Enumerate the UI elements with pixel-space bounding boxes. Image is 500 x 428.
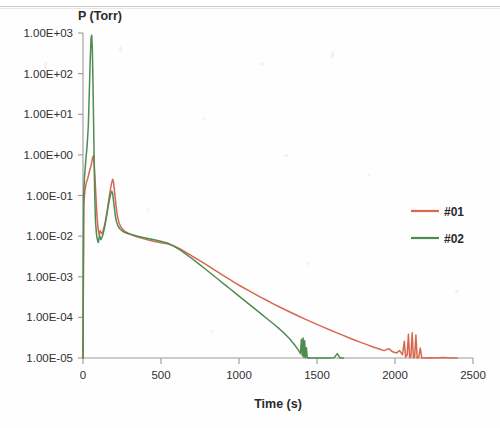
y-tick-label: 1.00E+01 [23,108,73,120]
x-tick-label: 1000 [226,369,252,381]
y-tick-label: 1.00E-02 [26,230,73,242]
y-tick-label: 1.00E+03 [23,27,73,39]
x-tick-label: 2000 [382,369,408,381]
series-line-n01 [83,156,457,358]
x-tick-label: 500 [151,369,170,381]
y-tick-label: 1.00E-03 [26,271,73,283]
series-lines [83,35,457,358]
y-axis-ticks: 1.00E+031.00E+021.00E+011.00E+001.00E-01… [23,27,83,364]
x-axis-title: Time (s) [254,397,302,411]
y-tick-label: 1.00E-04 [26,311,73,323]
series-line-n02 [83,35,344,358]
y-axis-title: P (Torr) [78,9,122,23]
x-tick-label: 1500 [304,369,330,381]
x-tick-label: 0 [80,369,86,381]
chart-legend: #01#02 [411,205,464,246]
legend-label-n01[interactable]: #01 [444,205,464,219]
x-axis-ticks: 05001000150020002500 [80,358,486,381]
legend-label-n02[interactable]: #02 [444,232,464,246]
y-tick-label: 1.00E+00 [23,149,73,161]
y-tick-label: 1.00E-01 [26,190,73,202]
y-tick-label: 1.00E-05 [26,352,73,364]
y-tick-label: 1.00E+02 [23,68,73,80]
pressure-vs-time-chart: P (Torr) Time (s) 1.00E+031.00E+021.00E+… [0,0,500,428]
x-tick-label: 2500 [460,369,486,381]
chart-page: P (Torr) Time (s) 1.00E+031.00E+021.00E+… [0,0,500,428]
